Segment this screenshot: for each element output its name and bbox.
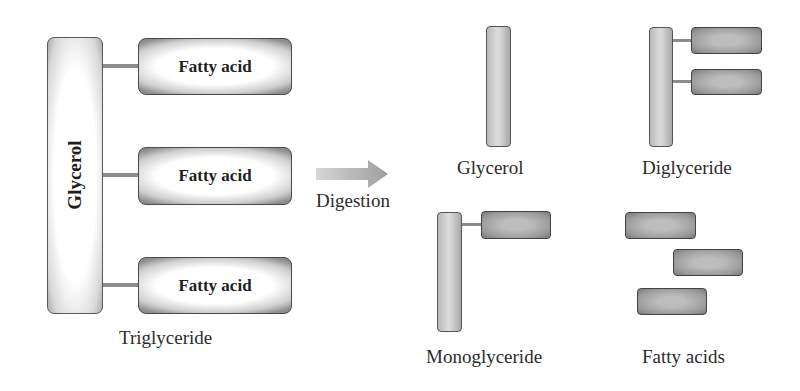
monoglyceride-backbone: [437, 212, 462, 332]
ester-bond-1: [103, 64, 139, 68]
free-fatty-acid-3: [637, 288, 707, 315]
ester-bond-3: [103, 283, 139, 287]
fatty-acids-caption: Fatty acids: [642, 346, 725, 368]
glycerol-caption: Glycerol: [457, 157, 523, 179]
diglyceride-bond-2: [673, 80, 692, 83]
fatty-acid-3-label: Fatty acid: [178, 276, 251, 296]
diglyceride-bond-1: [673, 39, 692, 42]
ester-bond-2: [103, 173, 139, 177]
diglyceride-backbone: [649, 27, 673, 147]
glycerol-label: Glycerol: [64, 140, 86, 209]
fatty-acid-1-label: Fatty acid: [178, 57, 251, 77]
free-fatty-acid-2: [673, 249, 743, 276]
fatty-acid-2: Fatty acid: [138, 147, 292, 205]
monoglyceride-bond: [462, 223, 482, 226]
diglyceride-fatty-acid-2: [691, 69, 762, 95]
fatty-acid-2-label: Fatty acid: [178, 166, 251, 186]
monoglyceride-fatty-acid: [481, 211, 551, 239]
diglyceride-fatty-acid-1: [691, 27, 762, 54]
glycerol-molecule: [486, 26, 511, 147]
diglyceride-caption: Diglyceride: [642, 157, 732, 179]
free-fatty-acid-1: [625, 212, 696, 239]
digestion-label: Digestion: [316, 190, 390, 212]
triglyceride-caption: Triglyceride: [119, 327, 212, 349]
fatty-acid-1: Fatty acid: [138, 38, 292, 95]
fatty-acid-3: Fatty acid: [138, 257, 292, 314]
monoglyceride-caption: Monoglyceride: [426, 346, 542, 368]
right-arrow-icon: [314, 158, 390, 190]
